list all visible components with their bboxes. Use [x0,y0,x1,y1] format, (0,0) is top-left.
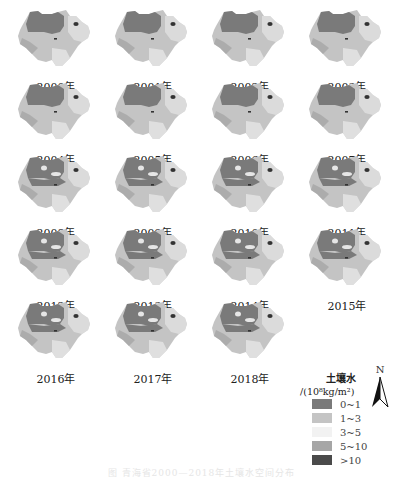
legend: 土壤水 /(10⁸kg/m²) 0~11~33~55~10>10 [306,370,376,467]
year-label: 2016年 [8,370,104,386]
soil-water-map [105,148,201,220]
legend-label: 0~1 [340,399,361,410]
legend-unit: /(10⁸kg/m²) [300,386,376,397]
legend-swatch [312,427,332,437]
year-label: 2015年 [299,297,395,313]
legend-label: 1~3 [340,413,361,424]
legend-swatch [312,413,332,423]
map-panel: 2017年 [105,294,201,386]
soil-water-map [202,294,298,366]
soil-water-map [299,2,395,74]
legend-title: 土壤水 [306,370,376,385]
year-label: 2018年 [202,370,298,386]
figure-caption: 图 青海省2000—2018年土壤水空间分布 [0,466,403,479]
legend-item: 0~1 [312,397,376,411]
soil-water-map [105,2,201,74]
north-arrow: N [368,364,392,414]
north-label: N [368,364,392,375]
soil-water-map [202,2,298,74]
legend-label: 3~5 [340,427,361,438]
soil-water-map [8,148,104,220]
soil-water-map [202,148,298,220]
soil-water-map [299,75,395,147]
soil-water-map [8,294,104,366]
soil-water-map [202,221,298,293]
legend-swatch [312,441,332,451]
legend-item: 1~3 [312,411,376,425]
soil-water-map [299,148,395,220]
soil-water-map [105,221,201,293]
soil-water-map [8,2,104,74]
map-panel: 2015年 [299,221,395,313]
year-label: 2017年 [105,370,201,386]
legend-label: 5~10 [340,441,367,452]
legend-item: 5~10 [312,439,376,453]
soil-water-map [8,221,104,293]
soil-water-map [202,75,298,147]
map-panel: 2018年 [202,294,298,386]
legend-swatch [312,455,332,465]
legend-label: >10 [340,455,361,466]
legend-item: >10 [312,453,376,467]
soil-water-map [105,294,201,366]
soil-water-map [299,221,395,293]
map-panel: 2016年 [8,294,104,386]
soil-water-map [105,75,201,147]
north-arrow-icon [368,375,392,409]
legend-item: 3~5 [312,425,376,439]
legend-swatch [312,399,332,409]
soil-water-map [8,75,104,147]
